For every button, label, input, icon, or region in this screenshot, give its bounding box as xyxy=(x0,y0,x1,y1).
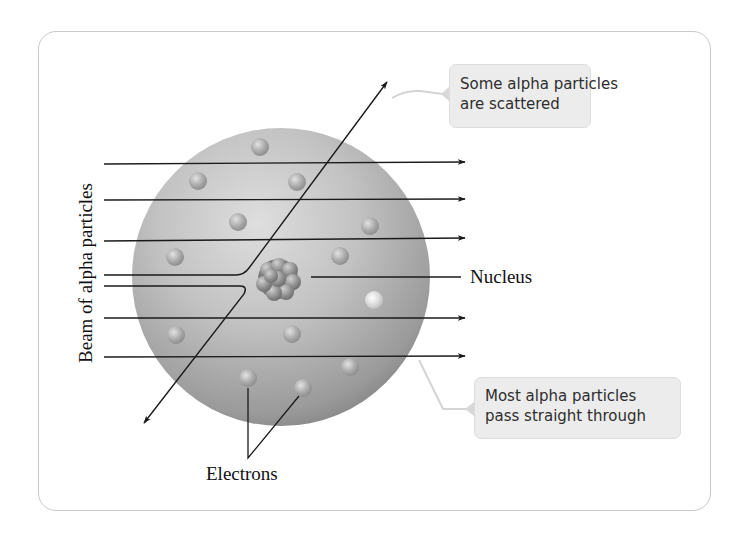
electron xyxy=(288,173,306,191)
pass-through-callout-connector xyxy=(419,360,466,409)
electron xyxy=(239,369,257,387)
callout-scattered-line1: Some alpha particles xyxy=(460,74,580,94)
beam-label: Beam of alpha particles xyxy=(75,183,97,363)
electron xyxy=(331,247,349,265)
electron xyxy=(167,326,185,344)
electron xyxy=(294,379,312,397)
electron xyxy=(341,358,359,376)
electrons-label: Electrons xyxy=(206,463,278,485)
electron xyxy=(361,217,379,235)
callout-pass-through-line2: pass straight through xyxy=(485,406,670,426)
atom-diagram xyxy=(0,0,754,538)
scattered-callout-connector xyxy=(392,91,443,98)
electron xyxy=(251,138,269,156)
electron xyxy=(365,291,383,309)
callout-pass-through: Most alpha particles pass straight throu… xyxy=(474,377,681,439)
callout-pass-through-line1: Most alpha particles xyxy=(485,386,670,406)
alpha-path-straight xyxy=(104,162,465,164)
callout-scattered-line2: are scattered xyxy=(460,94,580,114)
electron xyxy=(283,325,301,343)
electron xyxy=(166,248,184,266)
callout-connector-nubs xyxy=(441,87,474,416)
callout-scattered: Some alpha particles are scattered xyxy=(449,64,591,128)
alpha-path-straight xyxy=(104,356,465,357)
nucleus-label: Nucleus xyxy=(470,266,532,288)
electron xyxy=(229,213,247,231)
electron xyxy=(189,172,207,190)
